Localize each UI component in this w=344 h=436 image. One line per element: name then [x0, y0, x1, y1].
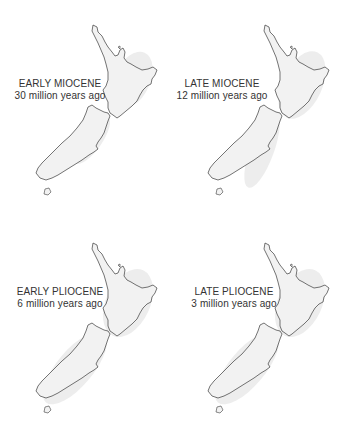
map-panel-early-miocene: EARLY MIOCENE 30 million years ago — [0, 0, 172, 218]
era-title: EARLY MIOCENE — [10, 78, 110, 90]
era-title: LATE PLIOCENE — [186, 286, 282, 298]
nz-map-early-pliocene — [0, 218, 172, 436]
panel-label: EARLY MIOCENE 30 million years ago — [10, 78, 110, 102]
panel-label: LATE MIOCENE 12 million years ago — [174, 78, 270, 102]
era-age: 12 million years ago — [174, 90, 270, 102]
map-panel-late-pliocene: LATE PLIOCENE 3 million years ago — [172, 218, 344, 436]
map-panel-early-pliocene: EARLY PLIOCENE 6 million years ago — [0, 218, 172, 436]
panel-label: LATE PLIOCENE 3 million years ago — [186, 286, 282, 310]
nz-map-early-miocene — [0, 0, 172, 218]
nz-map-late-miocene — [172, 0, 344, 218]
era-title: LATE MIOCENE — [174, 78, 270, 90]
era-age: 6 million years ago — [12, 298, 108, 310]
panel-label: EARLY PLIOCENE 6 million years ago — [12, 286, 108, 310]
era-title: EARLY PLIOCENE — [12, 286, 108, 298]
era-age: 30 million years ago — [10, 90, 110, 102]
map-panel-late-miocene: LATE MIOCENE 12 million years ago — [172, 0, 344, 218]
nz-map-late-pliocene — [172, 218, 344, 436]
era-age: 3 million years ago — [186, 298, 282, 310]
